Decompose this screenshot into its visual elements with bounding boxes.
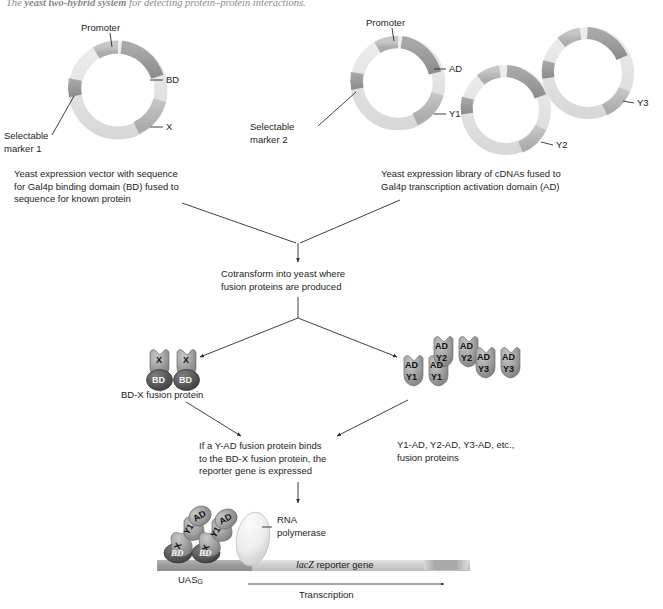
y1-label: Y1 [449, 108, 461, 121]
reporter-gene-text: reporter gene [314, 559, 374, 570]
plasmid-ad-y2 [467, 71, 553, 149]
segment-promoter-ad [377, 42, 398, 48]
protein-ad-y3-2 [501, 348, 520, 379]
segment-x [136, 100, 160, 128]
segment-promoter-y3 [561, 34, 580, 43]
segment-promoter-y2 [481, 72, 500, 80]
x-label: X [166, 121, 172, 134]
segment-ad-y2 [507, 71, 540, 96]
segment-marker-y3 [548, 62, 549, 78]
protein-ad-y2-2 [459, 337, 478, 368]
arrows-to-cotransform [182, 200, 400, 262]
binding-step-text: If a Y-AD fusion protein binds to the BD… [199, 440, 326, 478]
segment-promoter-bd [96, 47, 118, 53]
protein-ad-y1-1 [404, 356, 423, 387]
plasmid-ad-y1 [318, 28, 446, 126]
bd-x-fusion-protein [147, 350, 200, 391]
protein-ad-y3-1 [476, 348, 495, 379]
cotransform-step-text: Cotransform into yeast where fusion prot… [221, 268, 345, 293]
ad-y3-fusion-protein [476, 348, 520, 379]
segment-y2 [521, 127, 541, 147]
transcription-label: Transcription [299, 589, 354, 602]
segment-ad [402, 42, 435, 73]
y3-label: Y3 [637, 97, 649, 110]
plasmid-ad-caption: Yeast expression library of cDNAs fused … [381, 168, 561, 193]
rna-polymerase-label: RNA polymerase [277, 514, 326, 539]
plasmid-bd-caption: Yeast expression vector with sequence fo… [14, 168, 179, 206]
segment-marker-2 [357, 73, 358, 89]
protein-bd-2 [174, 370, 200, 391]
rna-polymerase [232, 510, 273, 568]
selectable-marker-2-label: Selectable marker 2 [250, 121, 294, 146]
promoter-label-ad: Promoter [366, 17, 405, 30]
segment-marker-1 [75, 80, 76, 96]
segment-bd [121, 47, 157, 77]
promoter-label-bd: Promoter [81, 22, 120, 35]
segment-marker-y2 [467, 98, 468, 113]
protein-ad-y2-1 [434, 337, 453, 368]
segment-y1 [415, 94, 438, 119]
uas-g-label: UASG [178, 574, 203, 589]
ad-y2-fusion-protein [434, 337, 478, 368]
plasmid-bd-x [52, 33, 163, 135]
ad-y-caption: Y1-AD, Y2-AD, Y3-AD, etc., fusion protei… [397, 439, 514, 464]
arrows-from-cotransform [200, 297, 397, 357]
uas-g-subscript: G [198, 578, 203, 585]
lacz-italic: lacZ [296, 559, 314, 570]
y2-label: Y2 [556, 139, 568, 152]
plasmid-ad-y3 [548, 33, 634, 113]
ad-label: AD [449, 63, 462, 76]
protein-bd-1 [147, 370, 173, 391]
diagram-canvas [0, 0, 663, 609]
bd-x-caption: BD-X fusion protein [121, 389, 203, 402]
dna-block [424, 560, 467, 570]
selectable-marker-1-label: Selectable marker 1 [4, 130, 48, 155]
lacz-reporter-gene-label: lacZ reporter gene [296, 559, 373, 572]
uas-g-text: UAS [178, 574, 198, 585]
segment-y3 [605, 90, 625, 110]
bd-label: BD [166, 74, 179, 87]
segment-ad-y3 [587, 33, 622, 58]
